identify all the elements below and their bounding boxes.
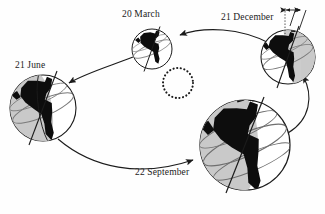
tilt-axis-line xyxy=(290,8,296,26)
orbit-arrow-december-to-march xyxy=(180,30,269,43)
globe-june xyxy=(0,68,80,151)
globe-march xyxy=(130,26,173,71)
orbit-arrow-march-to-june xyxy=(69,57,133,83)
orbit-arrow-september-to-december xyxy=(288,76,309,133)
sun-icon xyxy=(163,68,193,98)
label-march-equinox: 20 March xyxy=(122,10,160,20)
label-september-equinox: 22 September xyxy=(135,168,189,178)
earth-seasons-diagram: 20 March 21 December 21 June 22 Septembe… xyxy=(0,0,325,214)
orbit-arrow-june-to-september xyxy=(58,139,193,169)
label-june-solstice: 21 June xyxy=(15,61,45,71)
orbit-diagram-canvas xyxy=(0,0,325,214)
label-december-solstice: 21 December xyxy=(221,13,274,23)
globe-september xyxy=(195,88,297,202)
globe-december xyxy=(258,23,323,88)
